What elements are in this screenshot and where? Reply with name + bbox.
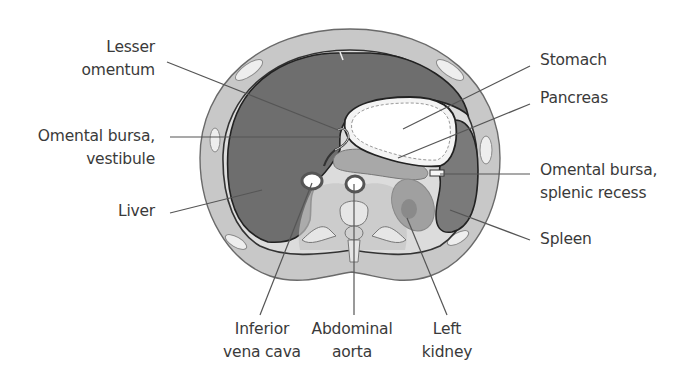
label-omental-bursa-splenic-recess: Omental bursa, splenic recess [540, 159, 657, 205]
label-line: Pancreas [540, 87, 608, 110]
label-omental-bursa-vestibule: Omental bursa, vestibule [38, 125, 155, 171]
label-stomach: Stomach [540, 49, 607, 72]
label-line: Omental bursa, [38, 125, 155, 148]
label-line: Stomach [540, 49, 607, 72]
label-left-kidney: Left kidney [422, 318, 472, 364]
label-line: aorta [312, 341, 393, 364]
label-pancreas: Pancreas [540, 87, 608, 110]
label-line: Omental bursa, [540, 159, 657, 182]
label-inferior-vena-cava: Inferior vena cava [223, 318, 301, 364]
label-line: Left [422, 318, 472, 341]
label-line: Liver [118, 200, 155, 223]
label-line: vena cava [223, 341, 301, 364]
label-line: omentum [81, 59, 155, 82]
label-line: kidney [422, 341, 472, 364]
omental-bursa-splenic-recess [430, 170, 444, 176]
label-line: vestibule [38, 148, 155, 171]
label-line: Lesser [81, 36, 155, 59]
label-liver: Liver [118, 200, 155, 223]
label-line: splenic recess [540, 182, 657, 205]
inferior-vena-cava [302, 173, 322, 189]
label-lesser-omentum: Lesser omentum [81, 36, 155, 82]
label-line: Inferior [223, 318, 301, 341]
label-abdominal-aorta: Abdominal aorta [312, 318, 393, 364]
label-spleen: Spleen [540, 228, 592, 251]
label-line: Abdominal [312, 318, 393, 341]
abdominal-aorta [346, 176, 364, 192]
label-line: Spleen [540, 228, 592, 251]
